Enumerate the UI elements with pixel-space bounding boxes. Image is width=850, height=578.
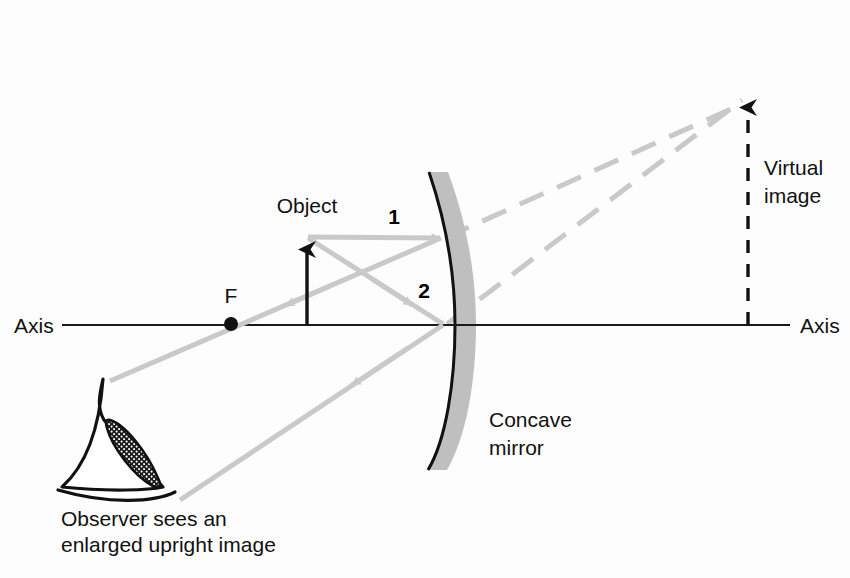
axis-label-right: Axis <box>800 314 840 337</box>
mirror-label-line2: mirror <box>489 436 544 459</box>
ray-2-label: 2 <box>418 279 430 302</box>
concave-mirror-diagram: Axis Axis F Object 1 2 Concave mirror Vi… <box>0 0 850 578</box>
focal-point-label: F <box>225 284 238 307</box>
virtual-image-label-line2: image <box>764 184 821 207</box>
observer-caption-line1: Observer sees an <box>61 507 227 530</box>
incident-ray-1 <box>308 237 440 238</box>
focal-point <box>224 317 238 331</box>
diagram-canvas: Axis Axis F Object 1 2 Concave mirror Vi… <box>0 0 850 578</box>
observer-caption-line2: enlarged upright image <box>61 533 276 556</box>
axis-label-left: Axis <box>14 314 54 337</box>
mirror-label-line1: Concave <box>489 408 572 431</box>
object-label: Object <box>277 194 338 217</box>
virtual-image-label-line1: Virtual <box>764 156 823 179</box>
ray-1-label: 1 <box>388 205 400 228</box>
focal-point-dot <box>224 317 238 331</box>
